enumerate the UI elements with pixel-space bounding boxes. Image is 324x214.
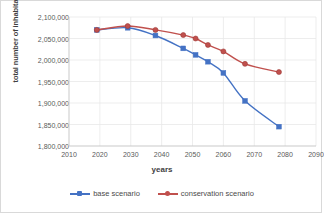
x-tick-label: 2060 (216, 151, 232, 158)
data-point-marker (205, 42, 210, 47)
x-tick-label: 2010 (61, 151, 77, 158)
legend-label: base scenario (93, 189, 140, 198)
x-tick-label: 2070 (246, 151, 262, 158)
chart-legend: base scenarioconservation scenario (1, 189, 323, 198)
data-point-marker (276, 70, 281, 75)
legend-swatch-icon (70, 190, 90, 198)
legend-label: conservation scenario (181, 189, 254, 198)
data-point-marker (193, 36, 198, 41)
x-tick-label: 2050 (185, 151, 201, 158)
data-point-marker (153, 33, 158, 38)
x-tick-label: 2080 (277, 151, 293, 158)
plot-area (1, 1, 323, 214)
data-point-marker (243, 98, 248, 103)
x-tick-label: 2020 (92, 151, 108, 158)
data-point-marker (181, 46, 186, 51)
data-point-marker (125, 24, 130, 29)
series-line (97, 26, 279, 72)
data-point-marker (221, 49, 226, 54)
x-tick-label: 2040 (154, 151, 170, 158)
legend-item[interactable]: base scenario (70, 189, 140, 198)
legend-item[interactable]: conservation scenario (158, 189, 254, 198)
data-point-marker (153, 27, 158, 32)
x-tick-label: 2030 (123, 151, 139, 158)
data-point-marker (181, 33, 186, 38)
data-point-marker (221, 71, 226, 76)
series-line (97, 28, 279, 127)
x-axis-title: years (1, 165, 323, 174)
data-point-marker (193, 52, 198, 57)
legend-swatch-icon (158, 190, 178, 198)
x-tick-label: 2090 (308, 151, 324, 158)
data-point-marker (242, 61, 247, 66)
data-point-marker (94, 27, 99, 32)
data-point-marker (206, 59, 211, 64)
data-point-marker (277, 124, 282, 129)
